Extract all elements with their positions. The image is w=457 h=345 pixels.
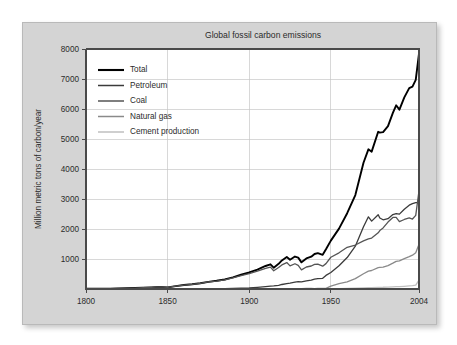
y-tick-label: 7000	[61, 75, 80, 84]
chart-title-group: Global fossil carbon emissions	[205, 30, 321, 40]
legend-label-petroleum: Petroleum	[130, 81, 167, 90]
x-tick-label: 1950	[322, 297, 341, 306]
global-fossil-carbon-emissions-chart: Global fossil carbon emissions 100020003…	[23, 23, 436, 324]
legend-label-natural-gas: Natural gas	[130, 112, 172, 121]
y-tick-label: 3000	[61, 195, 80, 204]
x-tick-label: 1850	[159, 297, 178, 306]
y-tick-label: 5000	[61, 135, 80, 144]
y-axis-title: Million metric tons of carbon/year	[34, 109, 43, 229]
y-tick-label: 4000	[61, 165, 80, 174]
x-tick-label: 2004	[410, 297, 429, 306]
y-tick-label: 2000	[61, 225, 80, 234]
legend-label-coal: Coal	[130, 96, 147, 105]
y-axis-ticks: 10002000300040005000600070008000	[61, 45, 86, 264]
y-tick-label: 8000	[61, 45, 80, 54]
x-axis-ticks: 18001850190019502004	[77, 289, 429, 306]
legend-label-total: Total	[130, 65, 147, 74]
figure-panel: Global fossil carbon emissions 100020003…	[22, 22, 437, 325]
chart-title: Global fossil carbon emissions	[205, 30, 321, 40]
x-tick-label: 1900	[240, 297, 259, 306]
x-tick-label: 1800	[77, 297, 96, 306]
y-tick-label: 6000	[61, 105, 80, 114]
legend-label-cement-production: Cement production	[130, 127, 200, 136]
y-tick-label: 1000	[61, 255, 80, 264]
